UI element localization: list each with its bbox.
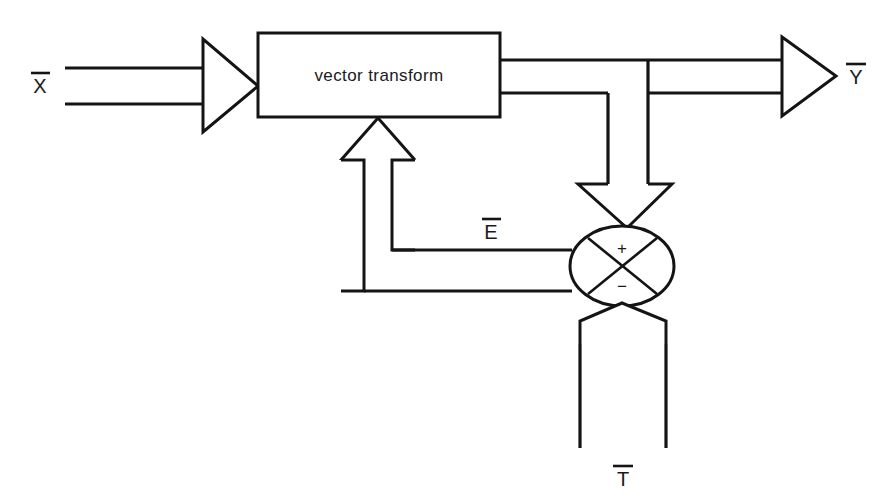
input-x-arrow	[65, 39, 258, 132]
output-y-arrow	[500, 37, 836, 116]
feedback-down-arrow	[578, 60, 672, 228]
vector-transform-label: vector transform	[314, 66, 443, 85]
summing-junction[interactable]: + −	[570, 226, 674, 306]
signal-label-x: X	[31, 73, 50, 97]
signal-label-e-text: E	[484, 221, 497, 243]
signal-label-y: Y	[846, 64, 866, 88]
target-t-arrow	[580, 303, 666, 448]
block-diagram-canvas: + − vector transform X	[0, 0, 890, 504]
error-feedback-arrow	[341, 118, 572, 291]
plus-sign-label: +	[617, 239, 627, 258]
signal-label-y-text: Y	[849, 66, 862, 88]
diagram-svg: + − vector transform X	[0, 0, 890, 504]
signal-label-e: E	[482, 219, 501, 243]
signal-label-t-text: T	[617, 468, 629, 490]
minus-sign-label: −	[617, 277, 627, 296]
signal-label-x-text: X	[33, 75, 46, 97]
signal-label-t: T	[613, 466, 633, 490]
